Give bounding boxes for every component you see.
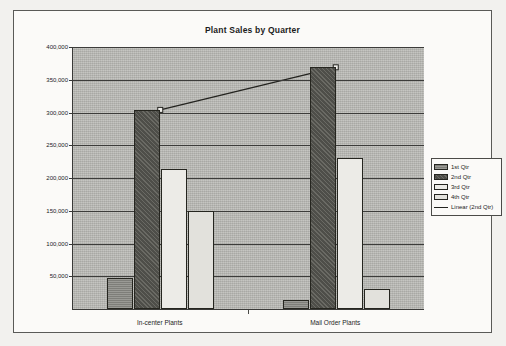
y-axis-tick: [69, 113, 73, 114]
y-axis-tick: [69, 178, 73, 179]
legend-item-4th-qtr[interactable]: 4th Qtr: [434, 192, 498, 202]
legend-label: 1st Qtr: [451, 164, 469, 170]
legend-swatch-icon: [434, 184, 448, 190]
bar-4th-qtr-in-center-plants: [188, 211, 214, 309]
bar-1st-qtr-in-center-plants: [107, 278, 133, 309]
gridline: [73, 244, 424, 245]
legend-swatch-icon: [434, 194, 448, 200]
y-axis-tick: [69, 145, 73, 146]
bar-4th-qtr-mail-order-plants: [364, 289, 390, 309]
chart-legend: 1st Qtr2nd Qtr3rd Qtr4th QtrLinear (2nd …: [431, 158, 502, 216]
bar-2nd-qtr-mail-order-plants: [310, 67, 336, 309]
y-axis: 400,000350,000300,000250,000200,000150,0…: [20, 47, 68, 310]
legend-item-2nd-qtr[interactable]: 2nd Qtr: [434, 172, 498, 182]
y-axis-tick-label: 350,000: [46, 77, 68, 83]
x-axis-category-label: Mail Order Plants: [310, 319, 360, 326]
legend-label: Linear (2nd Qtr): [451, 204, 493, 210]
bar-3rd-qtr-mail-order-plants: [337, 158, 363, 309]
legend-item-1st-qtr[interactable]: 1st Qtr: [434, 162, 498, 172]
y-axis-tick-label: 250,000: [46, 142, 68, 148]
gridline: [73, 80, 424, 81]
legend-swatch-icon: [434, 174, 448, 180]
gridline: [73, 211, 424, 212]
legend-label: 4th Qtr: [451, 194, 469, 200]
legend-swatch-icon: [434, 204, 448, 210]
y-axis-tick-label: 300,000: [46, 110, 68, 116]
chart-title: Plant Sales by Quarter: [14, 25, 491, 35]
legend-item-linear-2nd-qtr[interactable]: Linear (2nd Qtr): [434, 202, 498, 212]
y-axis-tick: [69, 47, 73, 48]
y-axis-tick-label: 400,000: [46, 44, 68, 50]
y-axis-tick: [69, 80, 73, 81]
x-axis-tick: [248, 310, 249, 314]
gridline: [73, 145, 424, 146]
y-axis-tick: [69, 244, 73, 245]
legend-label: 3rd Qtr: [451, 184, 470, 190]
y-axis-tick: [69, 211, 73, 212]
legend-swatch-icon: [434, 164, 448, 170]
gridline: [73, 47, 424, 48]
y-axis-tick-label: 50,000: [50, 273, 68, 279]
legend-label: 2nd Qtr: [451, 174, 471, 180]
legend-item-3rd-qtr[interactable]: 3rd Qtr: [434, 182, 498, 192]
bar-3rd-qtr-in-center-plants: [161, 169, 187, 309]
gridline: [73, 113, 424, 114]
gridline: [73, 178, 424, 179]
bar-1st-qtr-mail-order-plants: [283, 300, 309, 309]
chart-frame: Plant Sales by Quarter 400,000350,000300…: [13, 10, 492, 333]
bar-2nd-qtr-in-center-plants: [134, 110, 160, 309]
y-axis-tick-label: 100,000: [46, 241, 68, 247]
y-axis-tick: [69, 276, 73, 277]
y-axis-tick-label: 200,000: [46, 175, 68, 181]
plot-area: [72, 47, 424, 310]
y-axis-tick-label: 150,000: [46, 208, 68, 214]
x-axis-category-label: In-center Plants: [137, 319, 183, 326]
